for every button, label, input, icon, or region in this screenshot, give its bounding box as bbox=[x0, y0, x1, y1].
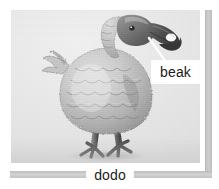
illustration-plate bbox=[11, 10, 200, 163]
right-accent-rule bbox=[205, 10, 212, 178]
figure-caption-dodo[interactable]: dodo bbox=[87, 164, 133, 186]
plate-bottom-shading bbox=[11, 137, 200, 163]
figure-canvas: beak dodo bbox=[0, 0, 219, 189]
callout-label-beak[interactable]: beak bbox=[152, 61, 199, 83]
